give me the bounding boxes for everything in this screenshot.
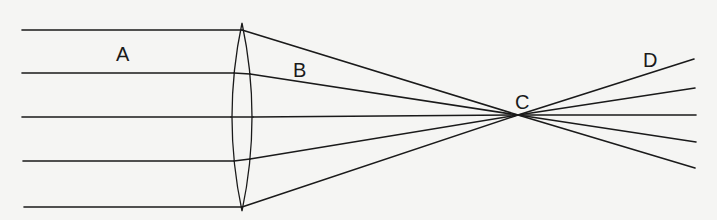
- label-d: D: [643, 50, 657, 70]
- diverging-ray-4: [518, 115, 696, 142]
- converging-ray-3: [253, 115, 518, 117]
- label-a: A: [116, 44, 129, 64]
- label-c: C: [515, 92, 529, 112]
- converging-ray-5: [242, 115, 518, 207]
- diverging-ray-2: [518, 88, 695, 115]
- lens-ray-2: [234, 73, 250, 74]
- converging-ray-1: [242, 30, 518, 115]
- label-b: B: [293, 60, 306, 80]
- converging-ray-2: [250, 74, 518, 115]
- converging-ray-4: [250, 115, 518, 159]
- diverging-ray-5: [518, 115, 695, 168]
- diverging-ray-1: [518, 59, 694, 115]
- lens-ray-4: [234, 159, 250, 161]
- ray-diagram-svg: [0, 0, 717, 220]
- lens-diagram: A B C D: [0, 0, 717, 220]
